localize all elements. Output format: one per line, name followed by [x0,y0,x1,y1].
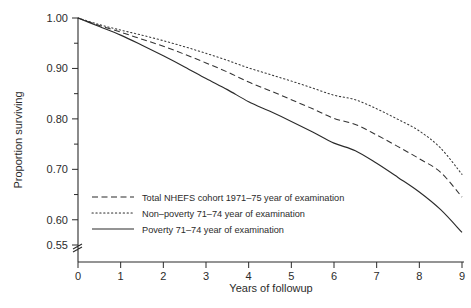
y-tick-label: 0.70 [47,163,68,175]
legend-label-3: Poverty 71–74 year of examination [142,225,284,235]
chart-canvas: 1.000.900.800.700.600.55 0123456789 Year… [0,0,471,308]
legend-label-2: Non–poverty 71–74 year of examination [142,209,305,219]
legend-label-1: Total NHEFS cohort 1971–75 year of exami… [142,193,344,203]
y-axis-title: Proportion surviving [12,91,24,188]
x-tick-label: 4 [246,270,252,282]
x-tick-label: 7 [374,270,380,282]
survival-chart: 1.000.900.800.700.600.55 0123456789 Year… [0,0,471,308]
x-tick-label: 0 [75,270,81,282]
x-tick-label: 3 [203,270,209,282]
x-tick-label: 1 [118,270,124,282]
y-tick-label: 0.90 [47,62,68,74]
x-tick-label: 9 [459,270,465,282]
y-tick-label: 1.00 [47,12,68,24]
y-tick-label: 0.55 [47,239,68,251]
x-tick-label: 5 [288,270,294,282]
x-tick-label: 8 [416,270,422,282]
y-tick-label: 0.60 [47,214,68,226]
x-axis-title: Years of followup [229,282,312,294]
y-tick-label: 0.80 [47,113,68,125]
x-tick-label: 6 [331,270,337,282]
x-tick-label: 2 [160,270,166,282]
